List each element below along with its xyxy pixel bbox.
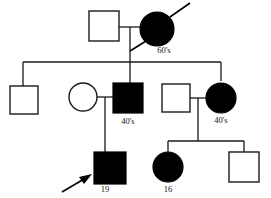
generation-ii-sibling-3-circle bbox=[206, 83, 236, 113]
generation-ii-sibling-2-square bbox=[113, 83, 143, 113]
generation-i-father-square bbox=[89, 11, 119, 41]
generation-iii-cousin-1-age-label: 16 bbox=[164, 184, 173, 194]
generation-iii-proband-age-label: 19 bbox=[101, 184, 110, 194]
generation-iii-cousin-1-circle bbox=[153, 152, 183, 182]
generation-iii-cousin-2-square bbox=[229, 152, 259, 182]
generation-iii-proband-square bbox=[94, 152, 126, 184]
pedigree-chart: 60's 40's 40's 19 bbox=[0, 0, 271, 198]
proband-arrow-head-icon bbox=[79, 174, 92, 184]
generation-ii-spouse-right-square bbox=[162, 84, 190, 112]
generation-ii-sibling-1-square bbox=[10, 86, 38, 114]
generation-ii-spouse-left-circle bbox=[69, 83, 97, 111]
generation-i-mother-age-label: 60's bbox=[157, 45, 170, 55]
generation-ii-sibling-3-age-label: 40's bbox=[214, 115, 227, 125]
proband-arrow-shaft-icon bbox=[62, 179, 84, 192]
deceased-slash-upper-icon bbox=[170, 3, 190, 17]
generation-ii-sibling-2-age-label: 40's bbox=[121, 116, 134, 126]
deceased-slash-lower-icon bbox=[130, 41, 146, 51]
pedigree-canvas: 60's 40's 40's 19 bbox=[0, 0, 271, 198]
